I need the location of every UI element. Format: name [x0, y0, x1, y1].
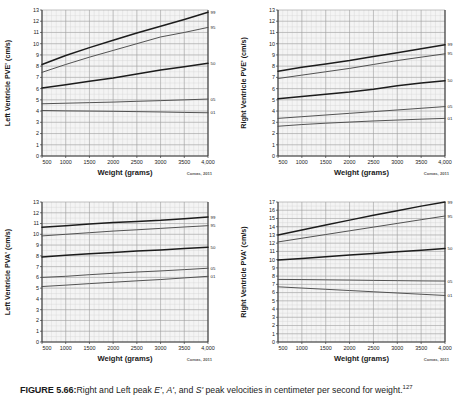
axis-y-title: Right Ventricle PVA' (cm/s): [239, 226, 248, 318]
axis-x-ticklabel: 2500: [131, 345, 143, 351]
axis-x-title: Weight (grams): [97, 354, 153, 363]
axis-y-ticklabel: 14: [269, 224, 275, 230]
axis-y-ticklabel: 8: [36, 63, 39, 69]
axis-y-ticklabel: 6: [272, 289, 275, 295]
axis-y-ticklabel: 3: [36, 119, 39, 125]
axis-y-ticklabel: 7: [36, 264, 39, 270]
axis-y-ticklabel: 6: [272, 86, 275, 92]
axis-y-ticklabel: 7: [272, 74, 275, 80]
chart-panel-left-ventricle-pve: 0123456789101112135001000150020002500300…: [0, 0, 236, 192]
axis-y-ticklabel: 4: [272, 108, 275, 114]
axis-x-ticklabel: 1500: [320, 345, 332, 351]
source-note: Comas, 2011: [424, 171, 450, 176]
axis-x-ticklabel: 3000: [155, 345, 167, 351]
figure-caption-symbol-e: E': [154, 385, 161, 395]
axis-y-ticklabel: 1: [272, 142, 275, 148]
figure-caption-text-d: peak velocities in centimeter per second…: [203, 385, 402, 395]
axis-x-ticklabel: 2000: [344, 159, 356, 165]
chart-svg-left-ventricle-pva: 0123456789101112135001000150020002500300…: [0, 192, 236, 378]
axis-y-ticklabel: 4: [272, 306, 275, 312]
axis-x-ticklabels: 5001000150020002500300035004,000: [278, 342, 452, 351]
axis-y-ticklabel: 13: [33, 199, 39, 205]
percentile-label-01: 01: [211, 110, 216, 115]
axis-y-ticklabel: 7: [272, 281, 275, 287]
axis-y-ticklabel: 6: [36, 86, 39, 92]
percentile-label-01: 01: [448, 116, 453, 121]
chart-svg-right-ventricle-pva: 0123456789101112131415161750010001500200…: [236, 192, 473, 378]
axis-x-ticklabel: 2000: [344, 345, 356, 351]
percentile-label-99: 99: [211, 215, 216, 220]
percentile-label-99: 99: [448, 42, 453, 47]
axis-y-ticklabel: 9: [36, 52, 39, 58]
axis-x-ticklabel: 4,000: [438, 159, 452, 165]
axis-x-ticklabel: 1500: [320, 159, 332, 165]
axis-y-ticklabel: 11: [269, 29, 275, 35]
axis-y-ticklabels: 01234567891011121314151617: [269, 199, 278, 345]
axis-y-ticklabel: 9: [272, 265, 275, 271]
figure-caption-text-c: , and: [174, 385, 196, 395]
axis-x-ticklabel: 4,000: [438, 345, 452, 351]
axis-y-ticklabels: 012345678910111213: [33, 199, 42, 345]
axis-y-ticklabel: 5: [36, 285, 39, 291]
axis-y-ticklabel: 2: [272, 322, 275, 328]
axis-x-title: Weight (grams): [334, 354, 390, 363]
axis-x-ticklabel: 2500: [367, 159, 379, 165]
percentile-label-95: 95: [211, 25, 216, 30]
percentile-label-95: 95: [211, 223, 216, 228]
axis-y-ticklabel: 4: [36, 296, 39, 302]
chart-panel-left-ventricle-pva: 0123456789101112135001000150020002500300…: [0, 192, 236, 378]
axis-y-ticklabel: 10: [33, 231, 39, 237]
axis-x-ticklabel: 500: [279, 159, 288, 165]
axis-y-ticklabel: 16: [269, 207, 275, 213]
axis-y-ticklabel: 13: [33, 7, 39, 13]
chart-panel-right-ventricle-pve: 0123456789101112135001000150020002500300…: [236, 0, 473, 192]
axis-y-ticklabel: 9: [272, 52, 275, 58]
axis-y-ticklabel: 2: [272, 130, 275, 136]
figure-caption: FIGURE 5.66:Right and Left peak E', A', …: [0, 378, 473, 404]
axis-y-ticklabel: 11: [33, 29, 39, 35]
axis-x-ticklabel: 3500: [178, 345, 190, 351]
axis-y-ticklabel: 5: [36, 97, 39, 103]
axis-x-ticklabel: 1500: [83, 159, 95, 165]
axis-y-ticklabel: 2: [36, 317, 39, 323]
axis-x-ticklabel: 1000: [60, 345, 72, 351]
axis-y-ticklabel: 4: [36, 108, 39, 114]
axis-y-ticklabel: 17: [269, 199, 275, 205]
chart-panel-right-ventricle-pva: 0123456789101112131415161750010001500200…: [236, 192, 473, 378]
axis-y-ticklabel: 9: [36, 242, 39, 248]
chart-svg-right-ventricle-pve: 0123456789101112135001000150020002500300…: [236, 0, 473, 192]
axis-x-ticklabel: 2500: [131, 159, 143, 165]
axis-x-ticklabels: 5001000150020002500300035004,000: [42, 342, 215, 351]
figure-caption-symbol-a: A': [166, 385, 173, 395]
percentile-label-95: 95: [448, 51, 453, 56]
axis-y-ticklabel: 10: [33, 41, 39, 47]
axis-y-ticklabel: 11: [269, 248, 275, 254]
percentile-labels: 9995500501: [448, 42, 453, 121]
panel-grid: 0123456789101112135001000150020002500300…: [0, 0, 473, 378]
percentile-label-05: 05: [448, 104, 453, 109]
axis-y-ticklabel: 12: [33, 210, 39, 216]
source-note: Comas, 2011: [187, 171, 213, 176]
axis-y-ticklabel: 13: [269, 232, 275, 238]
percentile-label-50: 50: [211, 245, 216, 250]
axis-y-title: Left Ventricle PVA' (cm/s): [3, 228, 12, 315]
figure-caption-text-a: Right and Left peak: [76, 385, 154, 395]
axis-x-ticklabel: 1000: [60, 159, 72, 165]
percentile-label-05: 05: [211, 266, 216, 271]
axis-x-ticklabel: 2000: [107, 345, 119, 351]
axis-x-ticklabel: 500: [43, 345, 52, 351]
axis-x-ticklabel: 1500: [83, 345, 95, 351]
axis-x-title: Weight (grams): [97, 168, 153, 177]
percentile-label-01: 01: [448, 293, 453, 298]
figure-caption-label: FIGURE 5.66:: [20, 385, 76, 395]
percentile-label-05: 05: [448, 279, 453, 284]
axis-y-ticklabel: 10: [269, 257, 275, 263]
axis-x-ticklabel: 3500: [178, 159, 190, 165]
percentile-label-50: 50: [211, 61, 216, 66]
percentile-label-95: 95: [448, 214, 453, 219]
axis-x-ticklabel: 2500: [367, 345, 379, 351]
source-note: Comas, 2011: [424, 357, 450, 362]
percentile-label-01: 01: [211, 274, 216, 279]
figure-caption-reference: 127: [403, 384, 413, 390]
axis-x-ticklabel: 3000: [391, 345, 403, 351]
